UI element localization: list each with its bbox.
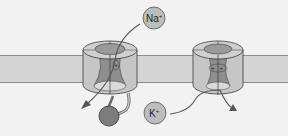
inactivation-ball: [99, 106, 119, 126]
sodium-ion-label: Na: [146, 13, 159, 24]
potassium-ion: K+: [144, 102, 166, 124]
potassium-sensor-charge-1: +: [211, 65, 215, 71]
ion-channel-diagram: + Na+ + + K+: [0, 0, 288, 136]
sodium-ion: Na+: [143, 7, 165, 29]
potassium-ion-charge: +: [156, 108, 160, 114]
potassium-sensor-charge-2: +: [220, 65, 224, 71]
cell-membrane: [0, 55, 288, 83]
sodium-ion-charge: +: [159, 13, 163, 19]
